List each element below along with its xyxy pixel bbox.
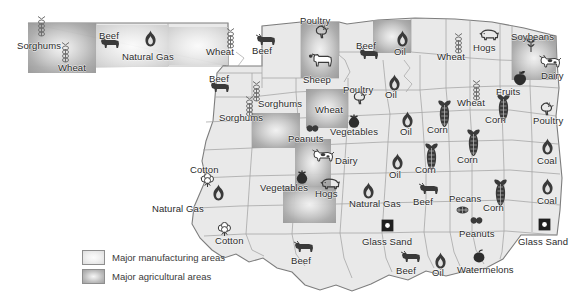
map-label-natural-gas-3: Natural Gas [122, 52, 174, 62]
glasssand-icon [538, 218, 551, 231]
map-label-poultry-11: Poultry [343, 85, 373, 95]
map-label-beef-14: Beef [356, 41, 376, 51]
map-label-glass-sand-44: Glass Sand [362, 237, 412, 247]
flame-icon [362, 182, 375, 199]
map-label-pecans-46: Pecans [449, 194, 481, 204]
map-label-poultry-25: Poultry [533, 116, 563, 126]
oildrop-icon [541, 178, 554, 195]
dairycow-icon [538, 54, 562, 69]
map-label-dairy-34: Dairy [335, 156, 358, 166]
legend-item-manufacturing: Major manufacturing areas [82, 249, 225, 266]
manufacturing-swatch-icon [82, 250, 105, 265]
chicken-icon [313, 25, 329, 39]
corn-icon [466, 129, 481, 157]
dairycow-icon [311, 148, 335, 163]
agricultural-swatch-icon [82, 269, 105, 284]
map-label-oil-16: Oil [385, 90, 397, 100]
watermelon-icon [471, 249, 487, 263]
chicken-icon [538, 102, 554, 116]
map-label-cotton-37: Cotton [190, 165, 219, 175]
map-label-coal-31: Coal [537, 156, 557, 166]
map-label-oil-18: Oil [389, 170, 401, 180]
map-label-hogs-36: Hogs [315, 189, 338, 199]
peanut-icon [469, 216, 484, 225]
cow-icon [400, 250, 422, 264]
peanut-icon [305, 124, 320, 133]
map-label-fruits-23: Fruits [496, 87, 520, 97]
pig-icon [479, 29, 499, 41]
map-label-poultry-7: Poultry [300, 16, 330, 26]
map-label-sorghums-9: Sorghums [219, 113, 263, 123]
glasssand-icon [381, 219, 394, 232]
flame-icon [212, 184, 225, 201]
oildrop-icon [541, 138, 554, 155]
map-label-beef-43: Beef [396, 266, 416, 276]
map-label-coal-32: Coal [537, 196, 557, 206]
map-label-oil-17: Oil [400, 127, 412, 137]
map-label-wheat-1: Wheat [58, 63, 86, 73]
map-figure: SorghumsWheatBeefNatural GasWheatBeefBee… [0, 0, 587, 305]
map-label-sheep-8: Sheep [303, 75, 331, 85]
legend-label-agricultural: Major agricultural areas [112, 271, 211, 282]
map-label-wheat-19: Wheat [437, 52, 465, 62]
map-label-corn-30: Corn [483, 203, 504, 213]
map-label-beef-41: Beef [291, 256, 311, 266]
map-label-peanuts-33: Peanuts [288, 134, 324, 144]
map-label-beef-5: Beef [252, 46, 272, 56]
oildrop-icon [396, 30, 409, 47]
oildrop-icon [391, 153, 404, 170]
map-label-watermelons-48: Watermelons [457, 265, 514, 275]
legend-label-manufacturing: Major manufacturing areas [112, 252, 225, 263]
map-label-peanuts-47: Peanuts [459, 229, 495, 239]
map-label-wheat-12: Wheat [315, 105, 343, 115]
map-label-beef-6: Beef [209, 74, 229, 84]
map-label-beef-2: Beef [99, 31, 119, 41]
map-label-beef-42: Beef [413, 197, 433, 207]
map-label-vegetables-13: Vegetables [330, 127, 378, 137]
fruit-icon [512, 70, 528, 86]
map-label-oil-15: Oil [394, 47, 406, 57]
map-label-cotton-38: Cotton [215, 236, 244, 246]
map-label-natural-gas-39: Natural Gas [152, 204, 204, 214]
map-label-wheat-24: Wheat [457, 98, 485, 108]
map-label-sorghums-10: Sorghums [258, 99, 302, 109]
map-label-dairy-22: Dairy [541, 71, 564, 81]
map-label-wheat-4: Wheat [206, 47, 234, 57]
cow-icon [293, 240, 315, 254]
map-label-oil-49: Oil [432, 268, 444, 278]
map-label-hogs-20: Hogs [473, 43, 496, 53]
map-label-corn-28: Corn [415, 165, 436, 175]
cow-icon [418, 182, 440, 196]
map-label-corn-27: Corn [485, 115, 506, 125]
map-legend: Major manufacturing areas Major agricult… [82, 249, 225, 287]
map-label-sorghums-0: Sorghums [17, 41, 61, 51]
map-label-corn-29: Corn [457, 155, 478, 165]
wheat-icon [35, 16, 48, 37]
flame-icon [144, 30, 157, 47]
map-label-natural-gas-40: Natural Gas [349, 199, 401, 209]
sheep-icon [308, 52, 333, 69]
map-label-glass-sand-45: Glass Sand [518, 237, 568, 247]
pecan-icon [455, 205, 470, 215]
map-label-soybeans-21: Soybeans [511, 32, 554, 42]
map-label-vegetables-35: Vegetables [260, 183, 308, 193]
legend-item-agricultural: Major agricultural areas [82, 268, 225, 285]
map-label-corn-26: Corn [427, 125, 448, 135]
